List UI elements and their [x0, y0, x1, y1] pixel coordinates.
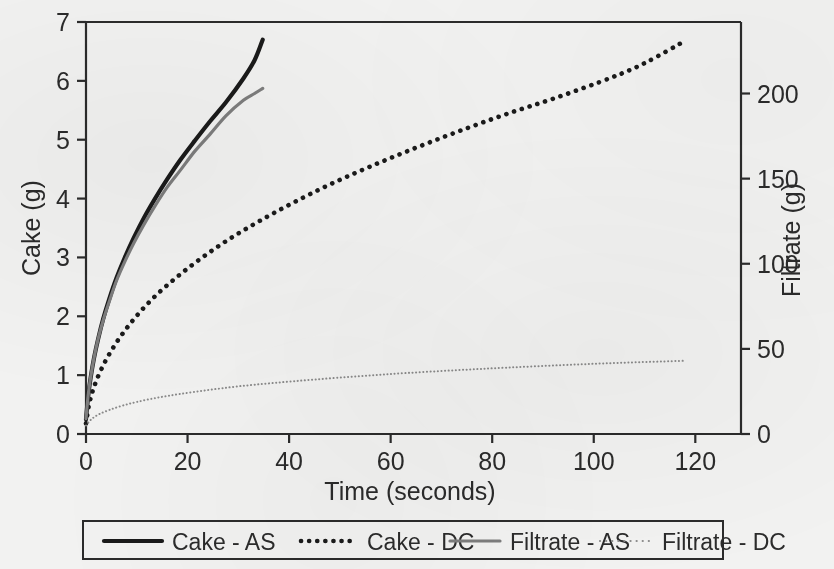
series-line-3: [86, 361, 685, 426]
bottom-axis-ticks: [86, 434, 695, 443]
tick-label: 0: [79, 447, 93, 475]
series-line-2: [86, 88, 263, 418]
tick-label: 120: [674, 447, 716, 475]
y-axis-title: Cake (g): [17, 180, 45, 276]
line-chart: 01234567 050100150200 020406080100120 Ca…: [0, 0, 834, 569]
tick-label: 6: [56, 67, 70, 95]
tick-label: 3: [56, 243, 70, 271]
tick-label: 40: [275, 447, 303, 475]
y2-axis-title: Filtrate (g): [777, 183, 805, 297]
x-axis-title: Time (seconds): [324, 477, 495, 505]
legend-label-0: Cake - AS: [172, 529, 276, 555]
plot-frame: [86, 22, 741, 434]
left-axis-ticks: [77, 22, 86, 434]
tick-label: 80: [478, 447, 506, 475]
left-axis-tick-labels: 01234567: [56, 8, 70, 448]
tick-label: 2: [56, 302, 70, 330]
tick-label: 0: [56, 420, 70, 448]
series-line-1: [86, 41, 685, 424]
legend-label-3: Filtrate - DC: [662, 529, 786, 555]
tick-label: 20: [174, 447, 202, 475]
tick-label: 4: [56, 185, 70, 213]
tick-label: 0: [757, 420, 771, 448]
series-line-0: [86, 40, 263, 420]
legend-items: Cake - ASCake - DCFiltrate - ASFiltrate …: [104, 529, 786, 555]
bottom-axis-tick-labels: 020406080100120: [79, 447, 716, 475]
tick-label: 1: [56, 361, 70, 389]
tick-label: 200: [757, 80, 799, 108]
tick-label: 100: [573, 447, 615, 475]
right-axis-ticks: [741, 94, 750, 434]
chart-figure: 01234567 050100150200 020406080100120 Ca…: [0, 0, 834, 569]
data-series-layer: [86, 40, 685, 426]
legend: Cake - ASCake - DCFiltrate - ASFiltrate …: [83, 521, 786, 559]
tick-label: 7: [56, 8, 70, 36]
tick-label: 5: [56, 126, 70, 154]
tick-label: 60: [377, 447, 405, 475]
tick-label: 50: [757, 335, 785, 363]
